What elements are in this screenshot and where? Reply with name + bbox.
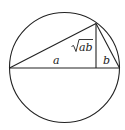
label-a: a [53,54,60,67]
label-sqrt-ab-radicand: ab [79,41,93,54]
geometric-mean-diagram: a b ab [0,0,125,130]
label-b: b [103,54,110,67]
label-sqrt-ab: ab [72,40,94,55]
